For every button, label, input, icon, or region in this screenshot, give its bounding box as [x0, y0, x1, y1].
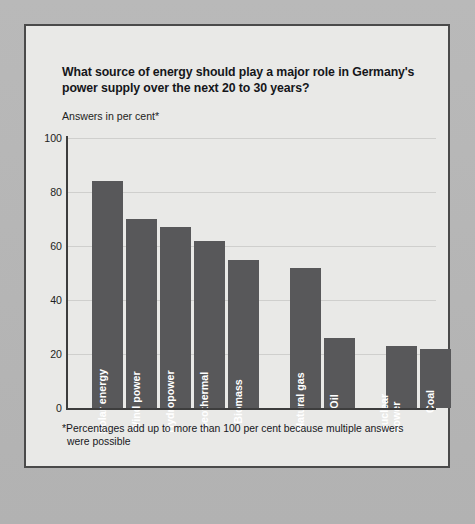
x-axis-line — [66, 408, 436, 410]
gridline-80 — [68, 192, 436, 193]
bar-natural-gas[interactable]: Natural gas — [290, 268, 321, 408]
chart-title: What source of energy should play a majo… — [62, 64, 428, 96]
bar-label-biomass: Biomass — [232, 379, 244, 424]
footnote-line-1: *Percentages add up to more than 100 per… — [62, 423, 403, 434]
gridline-60 — [68, 246, 436, 247]
bar-solar-energy[interactable]: Solar energy — [92, 181, 123, 408]
axis-unit-label: Answers in per cent* — [62, 110, 159, 122]
bar-oil[interactable]: Oil — [324, 338, 355, 408]
footnote-line-2: were possible — [62, 435, 434, 448]
y-tick-label-80: 80 — [32, 186, 62, 198]
y-tick-label-40: 40 — [32, 294, 62, 306]
bar-nuclear-power[interactable]: Nuclear power — [386, 346, 417, 408]
y-tick-label-100: 100 — [32, 132, 62, 144]
y-tick-label-60: 60 — [32, 240, 62, 252]
y-tick-label-0: 0 — [32, 402, 62, 414]
figure-root: What source of energy should play a majo… — [0, 0, 475, 524]
bar-wind-power[interactable]: Wind power — [126, 219, 157, 408]
y-tick-label-20: 20 — [32, 348, 62, 360]
y-axis-line — [66, 136, 68, 410]
plot-area: Solar energyWind powerHydropowerGeotherm… — [68, 138, 436, 408]
bar-coal[interactable]: Coal — [420, 349, 451, 408]
y-axis-tick-labels: 020406080100 — [26, 138, 62, 408]
bar-hydropower[interactable]: Hydropower — [160, 227, 191, 408]
bar-biomass[interactable]: Biomass — [228, 260, 259, 409]
chart-panel: What source of energy should play a majo… — [24, 24, 450, 468]
chart-footnote: *Percentages add up to more than 100 per… — [62, 422, 434, 448]
gridline-100 — [68, 138, 436, 139]
bar-label-oil: Oil — [328, 394, 340, 408]
bar-geothermal[interactable]: Geothermal — [194, 241, 225, 408]
